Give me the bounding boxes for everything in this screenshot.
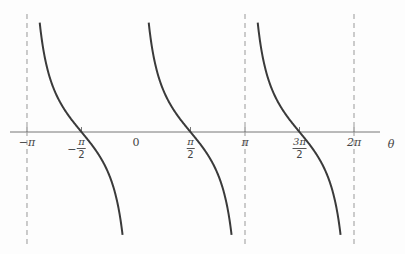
x-axis-label: θ (388, 139, 395, 150)
tick-label: π2− (77, 137, 86, 160)
tick-label: π2 (186, 137, 195, 160)
tick-label: 0 (133, 137, 140, 148)
tick-label: −π (19, 137, 35, 148)
plot-area (0, 0, 405, 254)
tick-label: π (241, 137, 248, 148)
tick-label: 3π2 (292, 137, 307, 160)
cotangent-chart: −ππ2−0π2π3π22π θ (0, 0, 405, 254)
tick-label: 2π (347, 137, 361, 148)
